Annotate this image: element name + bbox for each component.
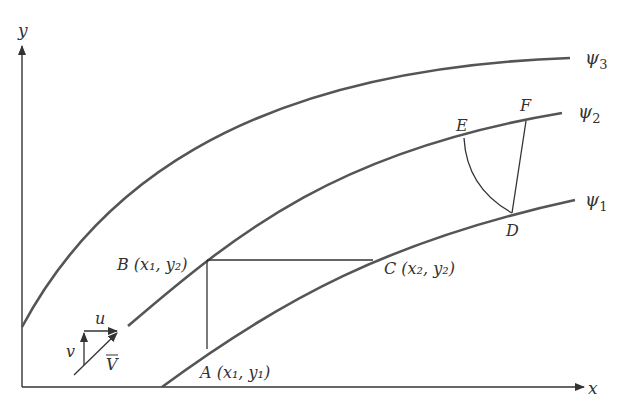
velocity-v-label: v <box>66 342 75 361</box>
arc-ED <box>464 138 512 213</box>
point-A-label: A (x₁, y₁) <box>198 363 270 382</box>
psi-1-label: ψ1 <box>585 189 607 214</box>
y-axis-label: y <box>17 20 28 40</box>
velocity-V-label: V <box>106 355 119 374</box>
point-B-label: B (x₁, y₂) <box>116 255 187 274</box>
x-axis-label: x <box>588 378 598 398</box>
segment-DF <box>512 121 526 213</box>
streamline-diagram: y x ψ3 ψ2 ψ1 B (x₁, y₂) C (x₂, y₂) A (x₁… <box>0 0 623 403</box>
point-D-label: D <box>505 221 519 240</box>
psi-2-label: ψ2 <box>578 101 600 126</box>
psi-3-label: ψ3 <box>585 47 607 72</box>
point-F-label: F <box>519 96 532 115</box>
point-C-label: C (x₂, y₂) <box>384 259 455 278</box>
velocity-u-label: u <box>95 309 105 328</box>
streamline-psi-3 <box>22 58 570 327</box>
point-E-label: E <box>455 116 468 135</box>
